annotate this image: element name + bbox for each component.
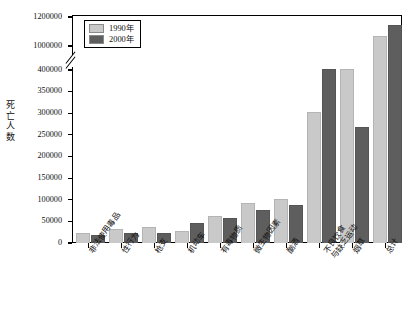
bar-2000 bbox=[322, 69, 336, 243]
bar-1990 bbox=[142, 227, 156, 243]
bar-1990 bbox=[241, 203, 255, 243]
y-tick-label: 250000 bbox=[10, 131, 62, 139]
y-tick-label: 1000000 bbox=[10, 42, 62, 50]
bar-1990 bbox=[307, 112, 321, 243]
y-tick-label: 1200000 bbox=[10, 13, 62, 21]
bar-1990 bbox=[175, 231, 189, 243]
bar-1990 bbox=[373, 36, 387, 243]
bar-chart: 死 亡 人 数 05000010000015000020000025000030… bbox=[0, 0, 417, 315]
bar-1990 bbox=[76, 233, 90, 243]
y-tick-label: 150000 bbox=[10, 174, 62, 182]
bar-group bbox=[373, 25, 402, 243]
bar-group bbox=[307, 69, 336, 243]
y-tick-label: 50000 bbox=[10, 217, 62, 225]
y-tick-label: 400000 bbox=[10, 66, 62, 74]
y-tick-label: 100000 bbox=[10, 196, 62, 204]
bar-1990 bbox=[208, 216, 222, 243]
bar-groups bbox=[72, 15, 402, 243]
y-tick-label: 300000 bbox=[10, 109, 62, 117]
bar-1990 bbox=[340, 69, 354, 243]
y-tick-label: 0 bbox=[10, 239, 62, 247]
y-tick-label: 350000 bbox=[10, 87, 62, 95]
bar-2000 bbox=[388, 25, 402, 243]
y-tick-label: 200000 bbox=[10, 152, 62, 160]
x-tick-mark bbox=[319, 243, 320, 248]
